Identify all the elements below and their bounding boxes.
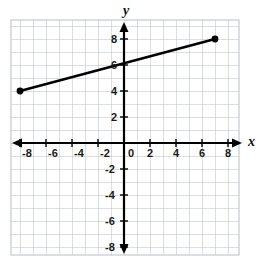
x-tick-label-neg6: -6: [48, 148, 58, 159]
right-endpoint-marker: [212, 36, 219, 43]
y-tick-label-4: 4: [111, 86, 117, 97]
x-tick-label-neg2: -2: [100, 148, 110, 159]
x-axis-label: x: [248, 135, 255, 149]
y-tick-label-2: 2: [111, 112, 117, 123]
x-tick-label-neg8: -8: [22, 148, 32, 159]
left-endpoint-marker: [17, 88, 24, 95]
x-tick-label-6: 6: [199, 148, 205, 159]
coordinate-plane-figure: y x -8 -6 -4 -2 0 2 4 6 8 8 6 4 2 -2 -4 …: [0, 0, 262, 264]
y-axis-label: y: [123, 4, 129, 18]
origin-label: 0: [128, 148, 134, 159]
y-tick-label-6: 6: [111, 60, 117, 71]
y-tick-label-8: 8: [111, 34, 117, 45]
y-tick-label-neg2: -2: [105, 164, 115, 175]
x-tick-label-8: 8: [225, 148, 231, 159]
graph-canvas: [0, 0, 262, 264]
y-tick-label-neg4: -4: [105, 190, 115, 201]
y-tick-label-neg8: -8: [105, 242, 115, 253]
x-tick-label-neg4: -4: [74, 148, 84, 159]
x-tick-label-2: 2: [147, 148, 153, 159]
x-tick-label-4: 4: [173, 148, 179, 159]
y-tick-label-neg6: -6: [105, 216, 115, 227]
